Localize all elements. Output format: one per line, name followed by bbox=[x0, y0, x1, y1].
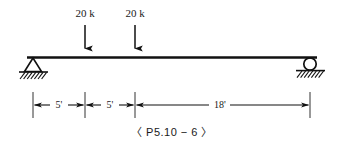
point-load-1-label: 20 k bbox=[75, 7, 95, 19]
dimension-label-2: 5' bbox=[107, 99, 114, 110]
point-load-2: 20 k bbox=[125, 7, 145, 49]
point-load-1: 20 k bbox=[75, 7, 95, 49]
dimension-segment-3: 18' bbox=[137, 99, 309, 110]
dimension-segment-2: 5' bbox=[87, 99, 134, 110]
beam-diagram: 20 k 20 k 5' 5' 18' bbox=[0, 0, 344, 146]
point-load-2-label: 20 k bbox=[125, 7, 145, 19]
dimension-label-1: 5' bbox=[56, 99, 63, 110]
dimension-segment-1: 5' bbox=[35, 99, 84, 110]
ground-hatch-left bbox=[20, 72, 47, 79]
figure-caption: 〈 P5.10 − 6 〉 bbox=[131, 126, 213, 138]
pin-support-left bbox=[19, 58, 48, 79]
dimension-label-3: 18' bbox=[214, 99, 226, 110]
ground-hatch-right bbox=[297, 71, 324, 78]
roller-support-right bbox=[296, 58, 325, 78]
figure-canvas: 20 k 20 k 5' 5' 18' bbox=[0, 0, 344, 146]
